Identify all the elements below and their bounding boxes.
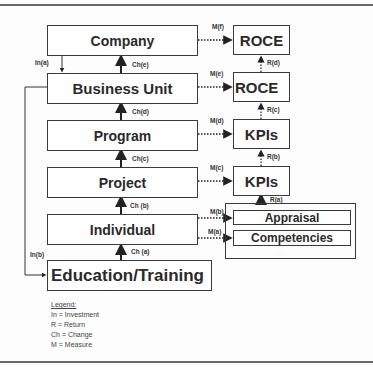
change-label-c: Ch(c) xyxy=(132,155,149,162)
appraisal-box: Appraisal xyxy=(233,210,351,225)
roce-top-box: ROCE xyxy=(233,25,290,55)
return-label-a: R(a) xyxy=(270,196,283,203)
investment-label-b: In(b) xyxy=(30,251,44,258)
business-unit-box: Business Unit xyxy=(47,73,198,104)
return-label-b: R(b) xyxy=(267,153,280,160)
change-label-a: Ch (a) xyxy=(131,248,149,255)
legend-item: R = Return xyxy=(51,320,99,330)
individual-box: Individual xyxy=(47,214,198,245)
measure-label-c: M(c) xyxy=(210,164,223,171)
measure-label-a: M(a) xyxy=(208,228,221,235)
measure-label-e: M(e) xyxy=(210,70,223,77)
education-training-box: Education/Training xyxy=(47,260,212,291)
kpis-project-box: KPIs xyxy=(233,166,290,196)
project-box: Project xyxy=(47,167,198,198)
change-label-e: Ch(e) xyxy=(132,61,149,68)
legend-title: Legend: xyxy=(51,300,99,310)
company-box: Company xyxy=(47,25,198,56)
roce-bu-box: ROCE xyxy=(233,72,290,102)
kpis-program-box: KPIs xyxy=(233,119,290,149)
legend-item: Ch = Change xyxy=(51,330,99,340)
return-label-c: R(c) xyxy=(267,106,280,113)
legend-item: In = Investment xyxy=(51,310,99,320)
investment-arrow-b xyxy=(25,87,47,275)
measure-label-d: M(d) xyxy=(210,117,224,124)
change-label-d: Ch(d) xyxy=(132,108,149,115)
competencies-box: Competencies xyxy=(233,230,351,246)
program-box: Program xyxy=(47,120,198,151)
return-label-d: R(d) xyxy=(267,59,280,66)
measure-label-f: M(f) xyxy=(212,23,224,30)
legend: Legend: In = Investment R = Return Ch = … xyxy=(51,300,99,350)
change-label-b: Ch (b) xyxy=(130,202,149,209)
legend-item: M = Measure xyxy=(51,340,99,350)
measure-label-b: M(b) xyxy=(210,208,224,215)
investment-label-a: In(a) xyxy=(35,59,49,66)
